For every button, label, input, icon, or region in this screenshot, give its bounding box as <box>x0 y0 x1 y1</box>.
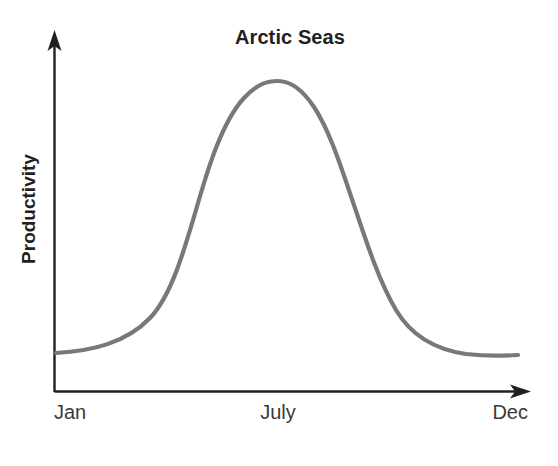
x-tick-label-jan: Jan <box>54 401 86 424</box>
x-tick-label-july: July <box>260 401 296 424</box>
x-tick-label-dec: Dec <box>492 401 528 424</box>
y-axis-title: Productivity <box>18 124 40 294</box>
x-axis-line <box>55 385 532 399</box>
page-title: Arctic Seas <box>0 26 558 49</box>
arctic-seas-chart: Arctic Seas Productivity Jan July Dec <box>0 0 558 466</box>
y-axis-line <box>48 30 62 392</box>
productivity-curve <box>56 81 518 356</box>
chart-plot-area <box>0 0 558 466</box>
